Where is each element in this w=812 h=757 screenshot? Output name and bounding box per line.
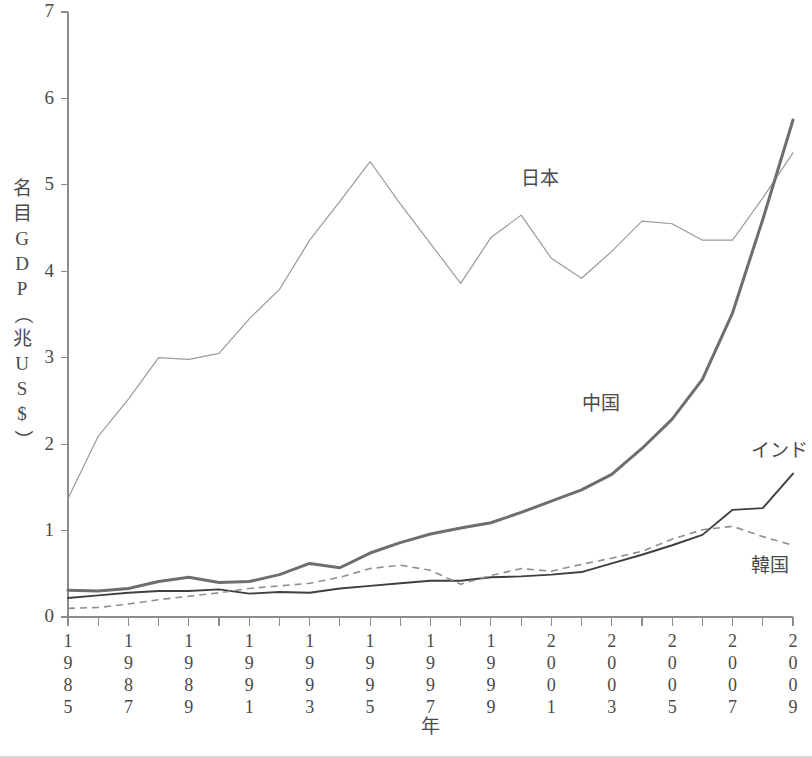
- x-tick-label: 2009: [789, 631, 798, 717]
- x-tick-digit: 9: [305, 653, 314, 673]
- series-line-china: [68, 120, 793, 591]
- x-tick-digit: 8: [184, 675, 193, 695]
- x-tick-digit: 8: [64, 675, 73, 695]
- x-tick-digit: 7: [728, 697, 737, 717]
- x-tick-digit: 9: [789, 697, 798, 717]
- y-tick-labels: 01234567: [45, 0, 55, 626]
- x-tick-digit: 1: [426, 631, 435, 651]
- y-tick-label: 4: [45, 260, 55, 281]
- y-tick-label: 1: [45, 519, 55, 540]
- series-line-japan: [68, 153, 793, 499]
- x-tick-digit: 3: [305, 697, 314, 717]
- x-tick-digit: 1: [245, 697, 254, 717]
- series-label-japan: 日本: [521, 168, 559, 189]
- x-tick-digit: 7: [426, 697, 435, 717]
- x-tick-digit: 1: [547, 697, 556, 717]
- y-tick-label: 2: [45, 433, 55, 454]
- x-tick-digit: 0: [728, 653, 737, 673]
- y-tick-label: 0: [45, 605, 55, 626]
- x-tick-digit: 0: [789, 653, 798, 673]
- x-tick-digit: 9: [366, 675, 375, 695]
- x-tick-label: 1987: [124, 631, 133, 717]
- x-tick-digit: 9: [486, 675, 495, 695]
- y-axis-title-char: 兆: [13, 328, 32, 349]
- x-tick-digit: 9: [426, 653, 435, 673]
- x-tick-digit: 2: [728, 631, 737, 651]
- y-tick-label: 6: [45, 87, 55, 108]
- x-axis-title: 年: [421, 716, 440, 737]
- y-axis-title-char: ）: [12, 430, 33, 449]
- x-tick-digit: 5: [366, 697, 375, 717]
- x-tick-label: 1989: [184, 631, 193, 717]
- x-tick-label: 1985: [64, 631, 73, 717]
- x-tick-digit: 9: [486, 697, 495, 717]
- x-tick-digit: 0: [607, 653, 616, 673]
- x-tick-label: 1991: [245, 631, 254, 717]
- y-tick-label: 3: [45, 346, 55, 367]
- y-axis-title-char: S: [17, 378, 28, 399]
- y-tick-label: 7: [45, 0, 55, 21]
- x-tick-digit: 0: [668, 675, 677, 695]
- x-tick-label: 1997: [426, 631, 435, 717]
- x-axis-title-text: 年: [421, 716, 440, 737]
- x-tick-digit: 1: [486, 631, 495, 651]
- series-line-korea: [68, 526, 793, 608]
- x-tick-digit: 0: [668, 653, 677, 673]
- x-tick-digit: 7: [124, 697, 133, 717]
- x-tick-label: 1999: [486, 631, 495, 717]
- series-annotations: 日本中国インド韓国: [521, 168, 808, 576]
- x-tick-digit: 9: [245, 675, 254, 695]
- y-axis: [61, 12, 68, 617]
- x-tick-label: 2003: [607, 631, 616, 717]
- x-tick-digit: 5: [64, 697, 73, 717]
- y-axis-title-char: U: [15, 353, 29, 374]
- x-tick-digit: 0: [607, 675, 616, 695]
- x-tick-labels: 1985198719891991199319951997199920012003…: [64, 631, 798, 717]
- y-axis-title-char: D: [15, 253, 29, 274]
- x-tick-label: 1995: [366, 631, 375, 717]
- x-tick-digit: 1: [124, 631, 133, 651]
- gdp-line-chart: 01234567 1985198719891991199319951997199…: [0, 0, 812, 757]
- y-axis-title-char: （: [12, 305, 33, 324]
- x-tick-digit: 0: [547, 653, 556, 673]
- x-tick-label: 2001: [547, 631, 556, 717]
- y-axis-title-char: 目: [13, 203, 32, 224]
- x-tick-digit: 9: [426, 675, 435, 695]
- x-axis: [68, 617, 793, 626]
- x-tick-digit: 2: [607, 631, 616, 651]
- chart-canvas: 01234567 1985198719891991199319951997199…: [0, 0, 812, 757]
- x-tick-digit: 9: [124, 653, 133, 673]
- y-axis-title-char: 名: [13, 178, 32, 199]
- x-tick-label: 2007: [728, 631, 737, 717]
- x-tick-digit: 9: [366, 653, 375, 673]
- x-tick-digit: 9: [486, 653, 495, 673]
- x-tick-digit: 1: [64, 631, 73, 651]
- x-tick-digit: 2: [547, 631, 556, 651]
- x-tick-digit: 0: [547, 675, 556, 695]
- series-label-china: 中国: [582, 393, 620, 414]
- x-tick-digit: 9: [64, 653, 73, 673]
- x-tick-digit: 9: [184, 697, 193, 717]
- x-tick-digit: 1: [245, 631, 254, 651]
- y-axis-title-char: G: [15, 228, 29, 249]
- x-tick-digit: 0: [789, 675, 798, 695]
- x-tick-label: 1993: [305, 631, 314, 717]
- series-label-india: インド: [751, 440, 808, 461]
- x-tick-digit: 1: [305, 631, 314, 651]
- x-tick-digit: 9: [245, 653, 254, 673]
- x-tick-digit: 2: [789, 631, 798, 651]
- x-tick-digit: 0: [728, 675, 737, 695]
- series-label-korea: 韓国: [751, 555, 789, 576]
- y-axis-title-char: $: [17, 403, 27, 424]
- x-tick-digit: 2: [668, 631, 677, 651]
- x-tick-digit: 3: [607, 697, 616, 717]
- x-tick-label: 2005: [668, 631, 677, 717]
- x-tick-digit: 8: [124, 675, 133, 695]
- x-tick-digit: 5: [668, 697, 677, 717]
- x-tick-digit: 1: [366, 631, 375, 651]
- x-tick-digit: 1: [184, 631, 193, 651]
- y-axis-title-char: P: [17, 278, 28, 299]
- x-tick-digit: 9: [305, 675, 314, 695]
- series-lines: [68, 120, 793, 608]
- x-tick-digit: 9: [184, 653, 193, 673]
